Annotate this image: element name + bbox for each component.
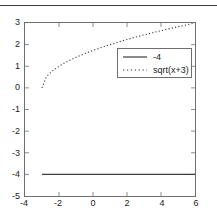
ytick-label-1: 1 [0,62,20,71]
ytick-label-neg4: -4 [0,170,20,179]
ytick-label-2: 2 [0,40,20,49]
figure-canvas: 3 2 1 0 -1 -2 -3 -4 -5 -4 -2 0 2 4 6 -4 … [0,0,217,212]
ytick-label-3: 3 [0,18,20,27]
ytick-label-neg2: -2 [0,127,20,136]
dotted-line-sample [122,64,148,76]
solid-line-sample [122,51,148,63]
legend-label-sqrt: sqrt(x+3) [153,66,189,75]
xtick-label-neg4: -4 [13,199,35,208]
page-header-rule [0,5,217,6]
ytick-label-neg1: -1 [0,105,20,114]
xtick-label-4: 4 [151,199,173,208]
xtick-label-neg2: -2 [47,199,69,208]
legend-entry-constant: -4 [118,50,191,64]
ytick-label-0: 0 [0,83,20,92]
legend-entry-sqrt: sqrt(x+3) [118,63,191,77]
legend-box: -4 sqrt(x+3) [117,48,192,78]
legend-label-constant: -4 [153,53,161,62]
xtick-label-6: 6 [185,199,207,208]
ytick-label-neg3: -3 [0,149,20,158]
xtick-label-0: 0 [82,199,104,208]
xtick-label-2: 2 [116,199,138,208]
